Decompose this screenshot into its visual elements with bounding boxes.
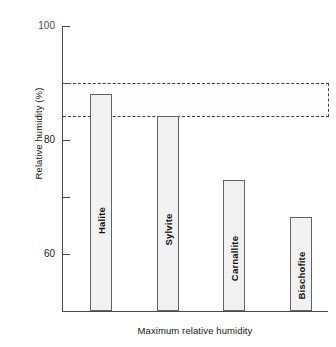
y-axis-title: Relative humidity (%) xyxy=(33,34,44,234)
y-tick-100: 100 xyxy=(63,26,70,27)
bar-label-bischofite: Bischofite xyxy=(296,217,307,311)
bar-label-carnallite: Carnallite xyxy=(229,183,240,311)
y-tick-label-60: 60 xyxy=(15,249,55,259)
plot-area: 020406080100 HaliteSylviteCarnalliteBisc… xyxy=(62,26,328,311)
bar-sylvite: Sylvite xyxy=(157,116,179,311)
y-tick-20: 20 xyxy=(63,254,70,255)
bar-carnallite: Carnallite xyxy=(223,180,245,311)
y-axis-line xyxy=(62,26,63,312)
x-axis-title: Maximum relative humidity xyxy=(62,325,328,336)
y-tick-label-100: 100 xyxy=(15,21,55,31)
bar-bischofite: Bischofite xyxy=(290,217,312,311)
y-tick-0: 0 xyxy=(63,311,70,312)
y-tick-40: 40 xyxy=(63,197,70,198)
bar-halite: Halite xyxy=(90,94,112,311)
chart-figure: Relative humidity (%) 020406080100 Halit… xyxy=(0,0,336,347)
y-tick-60: 60 xyxy=(63,140,70,141)
bar-label-sylvite: Sylvite xyxy=(163,155,174,305)
y-tick-label-80: 80 xyxy=(15,135,55,145)
bar-label-halite: Halite xyxy=(96,145,107,295)
y-tick-80: 80 xyxy=(63,83,70,84)
x-axis-line xyxy=(62,311,328,312)
